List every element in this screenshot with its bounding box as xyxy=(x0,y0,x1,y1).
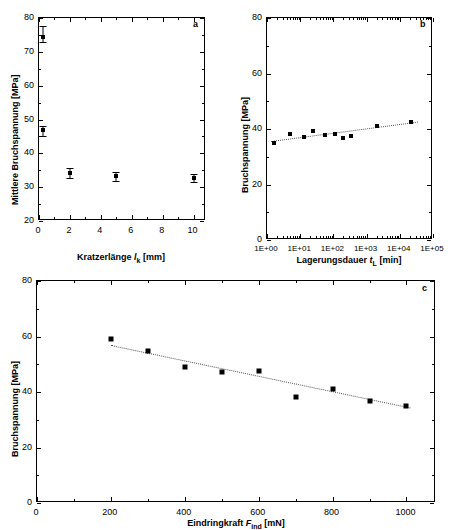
x-tick-minor xyxy=(287,236,288,238)
x-tick-major-top xyxy=(367,18,368,22)
y-tick-major-right xyxy=(200,86,204,87)
x-tick-minor xyxy=(326,236,327,238)
panel-c: c Bruchspannung [MPa] Eindringkraft Find… xyxy=(0,270,452,530)
x-tick-minor xyxy=(299,236,300,238)
x-tick-label: 0 xyxy=(33,507,38,517)
x-tick-label: 1E+00 xyxy=(254,244,277,253)
x-tick-minor xyxy=(410,236,411,238)
x-tick-minor xyxy=(343,236,344,238)
x-tick-minor-top xyxy=(370,281,371,283)
y-tick-major xyxy=(39,52,43,53)
data-point xyxy=(375,124,379,128)
panel-b-plot-area xyxy=(266,17,432,239)
x-tick-minor-top xyxy=(283,18,284,20)
y-tick-major-right xyxy=(430,392,434,393)
x-tick-major xyxy=(333,234,334,238)
error-bar-cap-bottom xyxy=(113,181,120,182)
x-tick-major-top xyxy=(333,281,334,285)
x-tick-label: 4 xyxy=(97,225,102,235)
x-tick-major xyxy=(70,215,71,219)
x-tick-minor-top xyxy=(357,18,358,20)
y-tick-minor xyxy=(37,420,39,421)
x-tick-major xyxy=(111,497,112,501)
error-bar-cap-bottom xyxy=(39,136,46,137)
y-tick-major-right xyxy=(430,337,434,338)
y-tick-major-right xyxy=(200,221,204,222)
x-tick-minor-top xyxy=(277,18,278,20)
y-tick-major xyxy=(39,120,43,121)
y-tick-label: 50 xyxy=(24,114,34,124)
panel-c-x-axis-title: Eindringkraft Find [mN] xyxy=(187,518,285,530)
x-tick-label: 1E+02 xyxy=(321,244,344,253)
error-bar-cap-top xyxy=(66,168,73,169)
x-tick-minor xyxy=(323,236,324,238)
x-tick-major xyxy=(267,234,268,238)
y-tick-label: 60 xyxy=(22,331,32,341)
y-tick-minor-right xyxy=(432,364,434,365)
x-tick-major xyxy=(194,215,195,219)
x-tick-label: 1E+04 xyxy=(387,244,410,253)
y-tick-minor xyxy=(39,170,41,171)
x-tick-minor xyxy=(416,236,417,238)
x-tick-minor-top xyxy=(343,18,344,20)
x-tick-label: 8 xyxy=(159,225,164,235)
x-tick-minor-top xyxy=(85,18,86,20)
panel-b-y-axis-title: Bruchspannung [MPa] xyxy=(240,97,250,193)
x-tick-label: 600 xyxy=(250,507,265,517)
x-tick-minor-top xyxy=(428,18,429,20)
x-tick-minor xyxy=(222,499,223,501)
y-tick-minor-right xyxy=(429,157,431,158)
x-tick-minor xyxy=(293,236,294,238)
x-tick-major xyxy=(37,497,38,501)
y-tick-label: 60 xyxy=(252,68,262,78)
x-tick-minor xyxy=(361,236,362,238)
y-tick-major-right xyxy=(200,187,204,188)
data-point xyxy=(114,174,118,178)
x-tick-major xyxy=(333,497,334,501)
y-tick-major xyxy=(39,153,43,154)
y-tick-major xyxy=(37,337,41,338)
y-tick-minor xyxy=(39,103,41,104)
figure-root: a Mittlere Bruchspannung [MPa] Kratzerlä… xyxy=(0,0,452,530)
data-point xyxy=(330,386,335,391)
x-tick-major xyxy=(406,497,407,501)
y-tick-major xyxy=(39,86,43,87)
y-tick-major-right xyxy=(200,18,204,19)
x-tick-minor-top xyxy=(410,18,411,20)
data-point xyxy=(219,370,224,375)
panel-a-y-axis-title: Mittlere Bruchspannung [MPa] xyxy=(10,74,20,205)
x-tick-minor xyxy=(178,217,179,219)
x-tick-major-top xyxy=(333,18,334,22)
data-point xyxy=(341,136,345,140)
x-tick-minor xyxy=(148,499,149,501)
y-tick-label: 20 xyxy=(252,179,262,189)
x-tick-major-top xyxy=(37,281,38,285)
x-tick-minor xyxy=(349,236,350,238)
y-tick-minor xyxy=(267,157,269,158)
x-tick-minor xyxy=(357,236,358,238)
y-tick-major xyxy=(267,185,271,186)
axis-title-unit: [mN] xyxy=(262,518,285,528)
data-point xyxy=(323,133,327,137)
x-tick-major xyxy=(259,497,260,501)
x-tick-major-top xyxy=(39,18,40,22)
x-tick-minor xyxy=(382,236,383,238)
x-tick-label: 800 xyxy=(324,507,339,517)
x-tick-label: 400 xyxy=(176,507,191,517)
data-point xyxy=(272,141,276,145)
y-tick-label: 0 xyxy=(257,234,262,244)
x-tick-minor xyxy=(320,236,321,238)
y-tick-minor-right xyxy=(432,475,434,476)
x-tick-minor-top xyxy=(222,281,223,283)
x-tick-major-top xyxy=(101,18,102,22)
error-bar-cap-top xyxy=(113,172,120,173)
x-tick-minor xyxy=(296,499,297,501)
y-tick-major xyxy=(37,448,41,449)
x-tick-major xyxy=(39,215,40,219)
y-tick-minor xyxy=(39,204,41,205)
y-tick-major xyxy=(39,187,43,188)
x-tick-minor-top xyxy=(316,18,317,20)
data-point xyxy=(256,369,261,374)
axis-title-subscript: ind xyxy=(251,523,262,530)
x-tick-minor-top xyxy=(296,281,297,283)
